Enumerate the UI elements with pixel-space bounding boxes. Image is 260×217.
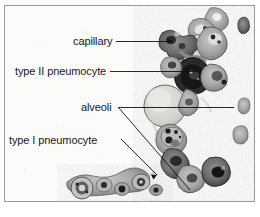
label-type-1-pneumocyte: type I pneumocyte <box>9 134 97 146</box>
figure-caption <box>112 206 260 215</box>
label-capillary: capillary <box>73 35 112 47</box>
micrograph-image <box>5 6 254 201</box>
figure-container: capillary type II pneumocyte alveoli typ… <box>0 0 260 217</box>
label-alveoli: alveoli <box>81 101 112 113</box>
label-type-2-pneumocyte: type II pneumocyte <box>15 65 106 77</box>
